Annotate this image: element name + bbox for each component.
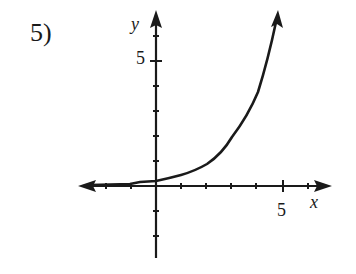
exponential-curve <box>90 22 276 185</box>
graph <box>0 0 356 274</box>
axes <box>90 24 320 258</box>
curve-arrow-icon <box>271 10 283 28</box>
